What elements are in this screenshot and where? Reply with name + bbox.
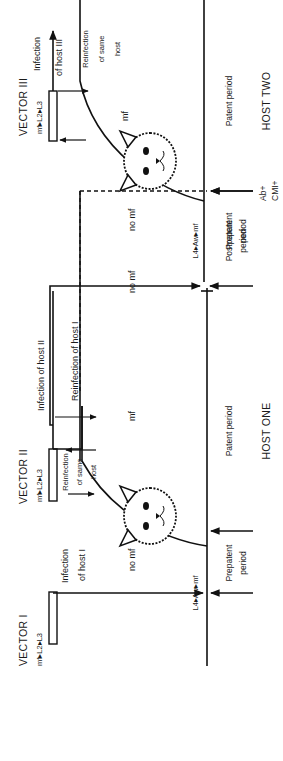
vector-3-box <box>49 91 57 141</box>
prepatent-2-label-2: period <box>238 219 248 243</box>
patent-2-label: Patent period <box>224 75 234 126</box>
cat-host-one-illustration <box>120 486 176 546</box>
state-mf-2: mf <box>120 111 130 121</box>
state-mf-1: mf <box>127 411 137 421</box>
infection-host-3-label-2: of host III <box>54 39 64 76</box>
host-two-label: HOST TWO <box>260 72 272 131</box>
prepatent-1-label: Prepatent <box>224 544 234 581</box>
prepatent-1-label-2: period <box>238 551 248 575</box>
vector-1-label: VECTOR I <box>17 614 29 666</box>
reinfection-same-host-a-1: Reinfection <box>61 453 70 491</box>
infection-host-3-label: Infection <box>32 37 42 71</box>
reinfection-same-host-a-3: host <box>89 464 98 479</box>
vector-2-label: VECTOR II <box>17 449 29 504</box>
infection-host-1-label: Infection <box>60 549 70 583</box>
vector-3-label: VECTOR III <box>17 78 29 136</box>
reinfection-same-host-b-3: host <box>113 41 122 56</box>
reinfection-same-host-a-2: of same <box>75 459 84 486</box>
prepatent-2-label: Prepatent <box>224 212 234 249</box>
development-2: L4▸Aw▸mf <box>191 223 200 259</box>
vector-1-stages: mf▸L2▸L3 <box>35 633 44 666</box>
immune-label-ab: Ab+ <box>258 186 268 201</box>
state-no-mf-2: no mf <box>127 270 137 293</box>
reinfection-host-1-path <box>53 406 82 449</box>
patent-1-label: Patent period <box>224 405 234 456</box>
vector-1-box <box>49 592 57 644</box>
vector-3-stages: mf▸L2▸L3 <box>35 101 44 134</box>
state-no-mf-1: no mf <box>127 548 137 571</box>
vector-2-stages: mf▸L2▸L3 <box>35 469 44 502</box>
vector-2-box <box>49 449 57 501</box>
immune-label-cmi: CMI+ <box>270 180 280 201</box>
reinfection-same-host-b-2: of same <box>97 36 106 63</box>
host-one-label: HOST ONE <box>260 402 272 459</box>
infection-host-1-label-2: of host I <box>77 549 87 581</box>
reinfection-host-1-label: Reinfection of host I <box>70 321 80 401</box>
state-no-mf-3: no mf <box>127 208 137 231</box>
cat-host-two-illustration <box>120 131 176 191</box>
reinfection-same-host-b-1: Reinfection <box>81 30 90 68</box>
infection-host-2-label: Infection of host II <box>36 340 46 411</box>
filarial-lifecycle-diagram: VECTOR I mf▸L2▸L3 Infection of host I no… <box>0 0 283 761</box>
development-1: L4▸Aw▸mf <box>191 575 200 611</box>
